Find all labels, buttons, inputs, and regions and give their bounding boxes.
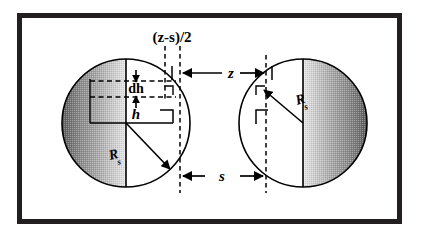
gap-expression-label: (z-s)/2 [152,29,191,46]
sphere-geometry-diagram: R s dh h [0,0,437,241]
dh-label: dh [128,81,144,96]
figure-container: R s dh h [0,0,437,241]
s-label: s [218,168,225,184]
h-label: h [132,106,140,122]
z-label: z [227,65,234,81]
